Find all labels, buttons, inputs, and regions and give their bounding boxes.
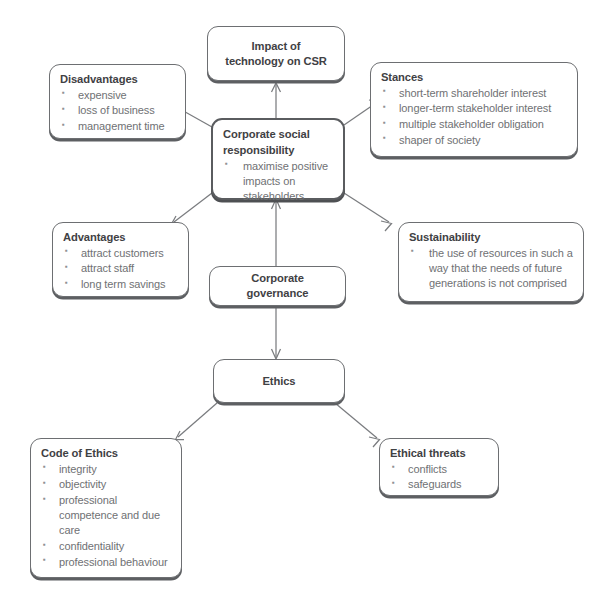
node-corporate-social-responsibility[interactable]: Corporate social responsibility maximise… — [211, 118, 345, 200]
list-item: short-term shareholder interest — [381, 86, 568, 101]
node-disadvantages-title: Disadvantages — [60, 72, 176, 87]
list-item: professional behaviour — [41, 555, 172, 570]
node-corporate-governance-title: Corporate governance — [220, 271, 335, 301]
connector-ethics-to-ethical-threats — [335, 403, 380, 447]
node-code-of-ethics-bullets: integrity objectivity professional compe… — [41, 462, 172, 570]
node-stances-title: Stances — [381, 70, 568, 85]
node-stances-bullets: short-term shareholder interest longer-t… — [381, 86, 568, 148]
list-item: expensive — [60, 88, 176, 103]
connector-ethics-to-code-of-ethics — [176, 403, 218, 440]
list-item: the use of resources in such a way that … — [409, 246, 574, 292]
list-item: maximise positive impacts on stakeholder… — [223, 159, 334, 205]
node-stances[interactable]: Stances short-term shareholder interest … — [370, 62, 578, 157]
node-impact-of-technology[interactable]: Impact of technology on CSR — [207, 26, 345, 81]
node-corporate-governance[interactable]: Corporate governance — [209, 266, 346, 306]
list-item: loss of business — [60, 103, 176, 118]
connector-csr-to-sustainability — [344, 193, 392, 231]
list-item: confidentiality — [41, 539, 172, 554]
list-item: shaper of society — [381, 133, 568, 148]
connector-governance-to-csr — [272, 199, 281, 266]
node-sustainability-title: Sustainability — [409, 230, 574, 245]
connector-governance-to-ethics — [272, 306, 281, 359]
node-advantages-title: Advantages — [63, 230, 179, 245]
node-disadvantages[interactable]: Disadvantages expensive loss of business… — [49, 64, 186, 139]
node-ethics-title: Ethics — [263, 374, 296, 389]
list-item: conflicts — [390, 462, 489, 477]
node-ethics[interactable]: Ethics — [213, 359, 345, 403]
node-csr-bullets: maximise positive impacts on stakeholder… — [223, 159, 334, 205]
list-item: integrity — [41, 462, 172, 477]
connector-csr-to-advantages — [172, 193, 213, 225]
node-code-of-ethics-title: Code of Ethics — [41, 446, 172, 461]
node-ethical-threats-title: Ethical threats — [390, 446, 489, 461]
node-csr-title-line-1: Corporate social — [223, 127, 334, 142]
node-advantages[interactable]: Advantages attract customers attract sta… — [52, 222, 189, 297]
node-ethical-threats[interactable]: Ethical threats conflicts safeguards — [379, 438, 499, 496]
list-item: safeguards — [390, 477, 489, 492]
list-item: attract staff — [63, 261, 179, 276]
list-item: multiple stakeholder obligation — [381, 117, 568, 132]
connector-csr-to-impact — [272, 83, 281, 118]
list-item: objectivity — [41, 477, 172, 492]
list-item: management time — [60, 119, 176, 134]
node-ethical-threats-bullets: conflicts safeguards — [390, 462, 489, 493]
list-item: long term savings — [63, 277, 179, 292]
node-code-of-ethics[interactable]: Code of Ethics integrity objectivity pro… — [30, 438, 182, 578]
diagram-canvas: Impact of technology on CSR Disadvantage… — [0, 0, 606, 596]
list-item: professional competence and due care — [41, 493, 172, 539]
list-item: attract customers — [63, 246, 179, 261]
node-advantages-bullets: attract customers attract staff long ter… — [63, 246, 179, 293]
node-csr-title-line-2: responsibility — [223, 143, 334, 158]
node-sustainability-bullets: the use of resources in such a way that … — [409, 246, 574, 292]
list-item: longer-term stakeholder interest — [381, 101, 568, 116]
node-impact-title: Impact of technology on CSR — [225, 39, 326, 69]
node-disadvantages-bullets: expensive loss of business management ti… — [60, 88, 176, 135]
node-sustainability[interactable]: Sustainability the use of resources in s… — [398, 222, 584, 302]
